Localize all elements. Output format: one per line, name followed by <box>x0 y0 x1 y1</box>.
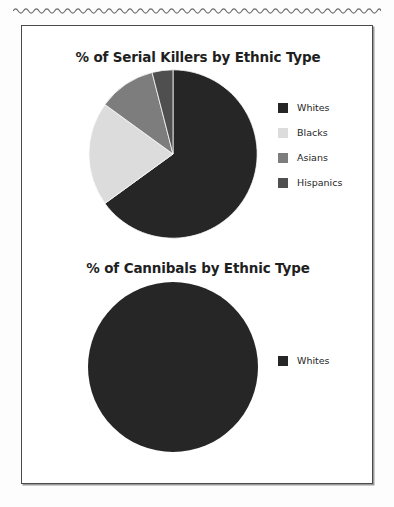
plot-area-cannibals: Whites <box>22 276 374 472</box>
pie-chart-serial-killers <box>88 69 258 239</box>
legend-label-blacks: Blacks <box>297 127 328 138</box>
legend-swatch-asians <box>278 153 288 163</box>
figure-frame: % of Serial Killers by Ethnic Type White… <box>21 25 373 484</box>
legend-cannibals: Whites <box>278 348 330 373</box>
legend-serial-killers: Whites Blacks Asians Hispanics <box>278 95 342 195</box>
legend-swatch-whites-cannibals <box>278 356 288 366</box>
legend-item-asians[interactable]: Asians <box>278 145 342 170</box>
legend-swatch-hispanics <box>278 178 288 188</box>
pie-chart-cannibals <box>88 282 258 452</box>
page-root: % of Serial Killers by Ethnic Type White… <box>0 0 394 507</box>
chart-block-cannibals: % of Cannibals by Ethnic Type Whites <box>22 258 374 483</box>
legend-label-whites: Whites <box>297 102 330 113</box>
legend-item-hispanics[interactable]: Hispanics <box>278 170 342 195</box>
legend-item-whites[interactable]: Whites <box>278 95 342 120</box>
chart-title-serial-killers: % of Serial Killers by Ethnic Type <box>22 47 374 65</box>
legend-swatch-whites <box>278 103 288 113</box>
legend-label-asians: Asians <box>297 152 328 163</box>
wavy-torn-edge-decoration <box>13 2 381 16</box>
chart-title-cannibals: % of Cannibals by Ethnic Type <box>22 258 374 276</box>
plot-area-serial-killers: Whites Blacks Asians Hispanics <box>22 65 374 251</box>
legend-item-blacks[interactable]: Blacks <box>278 120 342 145</box>
legend-item-whites-cannibals[interactable]: Whites <box>278 348 330 373</box>
legend-label-hispanics: Hispanics <box>297 177 342 188</box>
legend-label-whites-cannibals: Whites <box>297 355 330 366</box>
chart-block-serial-killers: % of Serial Killers by Ethnic Type White… <box>22 47 374 265</box>
legend-swatch-blacks <box>278 128 288 138</box>
